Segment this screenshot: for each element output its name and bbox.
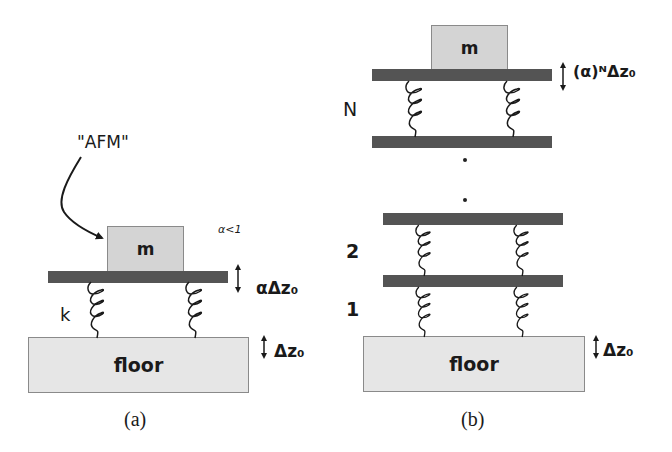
spring-icon: [514, 225, 528, 276]
line-art: [0, 0, 672, 452]
spring-icon: [406, 81, 421, 137]
afm-pointer-arrow: [61, 157, 102, 238]
spring-icon: [514, 287, 528, 337]
spring-icon: [416, 225, 430, 276]
spring-icon: [88, 282, 103, 338]
spring-icon: [186, 282, 201, 338]
spring-icon: [504, 81, 519, 137]
spring-icon: [416, 287, 430, 337]
